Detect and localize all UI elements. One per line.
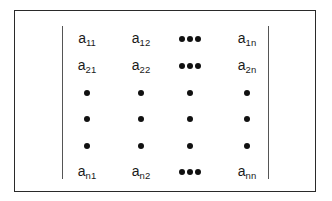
vertical-ellipsis-dot-icon — [138, 135, 144, 155]
vertical-ellipsis-dot-icon — [187, 82, 193, 102]
horizontal-ellipsis-icon — [178, 161, 202, 181]
dot-icon — [138, 90, 144, 96]
element-subscript: 22 — [140, 64, 151, 75]
dot-icon — [244, 143, 250, 149]
element-subscript: 1n — [246, 37, 257, 48]
dot-icon — [195, 63, 201, 69]
dot-icon — [244, 90, 250, 96]
matrix-element: an1 — [78, 161, 96, 181]
right-determinant-bar — [268, 26, 269, 179]
dot-icon — [195, 169, 201, 175]
dot-icon — [138, 116, 144, 122]
element-subscript: 21 — [86, 64, 97, 75]
dot-icon — [84, 143, 90, 149]
vertical-ellipsis-dot-icon — [84, 82, 90, 102]
horizontal-ellipsis-icon — [178, 55, 202, 75]
vertical-ellipsis-dot-icon — [138, 82, 144, 102]
dot-icon — [244, 116, 250, 122]
element-base: a — [132, 57, 140, 73]
matrix-element: a11 — [78, 28, 96, 48]
element-base: a — [78, 30, 86, 46]
dot-icon — [84, 116, 90, 122]
vertical-ellipsis-dot-icon — [187, 108, 193, 128]
element-subscript: nn — [246, 170, 257, 181]
dot-icon — [138, 143, 144, 149]
dot-icon — [187, 143, 193, 149]
element-base: a — [238, 57, 246, 73]
dot-icon — [187, 116, 193, 122]
element-base: a — [78, 163, 86, 179]
matrix-element: a2n — [238, 55, 256, 75]
matrix-element: a22 — [132, 55, 150, 75]
matrix-element: a21 — [78, 55, 96, 75]
left-determinant-bar — [62, 26, 63, 179]
matrix-element: ann — [238, 161, 256, 181]
matrix-element: a1n — [238, 28, 256, 48]
vertical-ellipsis-dot-icon — [187, 135, 193, 155]
matrix-element: an2 — [132, 161, 150, 181]
dot-icon — [187, 63, 193, 69]
vertical-ellipsis-dot-icon — [244, 135, 250, 155]
element-base: a — [238, 163, 246, 179]
horizontal-ellipsis-icon — [178, 28, 202, 48]
vertical-ellipsis-dot-icon — [84, 135, 90, 155]
vertical-ellipsis-dot-icon — [244, 108, 250, 128]
element-subscript: n1 — [86, 170, 97, 181]
element-subscript: 2n — [246, 64, 257, 75]
element-base: a — [132, 163, 140, 179]
matrix-element: a12 — [132, 28, 150, 48]
dot-icon — [187, 90, 193, 96]
dot-icon — [84, 90, 90, 96]
vertical-ellipsis-dot-icon — [244, 82, 250, 102]
vertical-ellipsis-dot-icon — [138, 108, 144, 128]
element-base: a — [132, 30, 140, 46]
dot-icon — [179, 63, 185, 69]
element-base: a — [78, 57, 86, 73]
diagram-frame — [14, 10, 316, 192]
element-subscript: n2 — [140, 170, 151, 181]
dot-icon — [195, 36, 201, 42]
element-subscript: 11 — [86, 37, 96, 48]
element-base: a — [238, 30, 246, 46]
dot-icon — [179, 169, 185, 175]
element-subscript: 12 — [140, 37, 151, 48]
dot-icon — [179, 36, 185, 42]
dot-icon — [187, 169, 193, 175]
vertical-ellipsis-dot-icon — [84, 108, 90, 128]
dot-icon — [187, 36, 193, 42]
